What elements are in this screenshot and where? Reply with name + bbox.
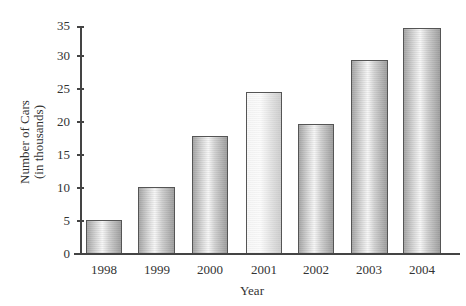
x-tick-label: 2003 <box>344 262 394 278</box>
y-tick <box>77 154 84 156</box>
y-tick <box>77 55 84 57</box>
y-tick-label: 0 <box>40 247 70 260</box>
bar-2004 <box>403 28 441 253</box>
x-tick-label: 2002 <box>291 262 341 278</box>
bar-2002 <box>298 124 334 253</box>
y-tick-label: 5 <box>40 214 70 227</box>
y-tick <box>77 88 84 90</box>
x-tick-label: 1999 <box>132 262 182 278</box>
bar-2003 <box>351 60 388 253</box>
x-tick-label: 2004 <box>397 262 447 278</box>
x-tick-label: 2000 <box>185 262 235 278</box>
y-tick-label: 35 <box>40 19 70 32</box>
y-tick <box>77 220 84 222</box>
x-tick-label: 1998 <box>79 262 129 278</box>
y-tick-label: 25 <box>40 82 70 95</box>
bar-2000 <box>192 136 228 253</box>
y-tick <box>77 253 84 255</box>
y-tick <box>77 187 84 189</box>
x-axis-label: Year <box>222 283 282 299</box>
y-tick-label: 20 <box>40 115 70 128</box>
y-tick-label: 30 <box>40 49 70 62</box>
bar-2001 <box>246 92 282 253</box>
y-tick-label: 15 <box>40 148 70 161</box>
y-tick-label: 10 <box>40 181 70 194</box>
y-tick <box>77 121 84 123</box>
y-axis-label-line1: Number of Cars <box>18 72 32 212</box>
x-tick-label: 2001 <box>239 262 289 278</box>
bar-1998 <box>86 220 122 253</box>
bar-1999 <box>138 187 175 253</box>
x-axis <box>74 253 460 255</box>
y-tick <box>77 26 84 28</box>
